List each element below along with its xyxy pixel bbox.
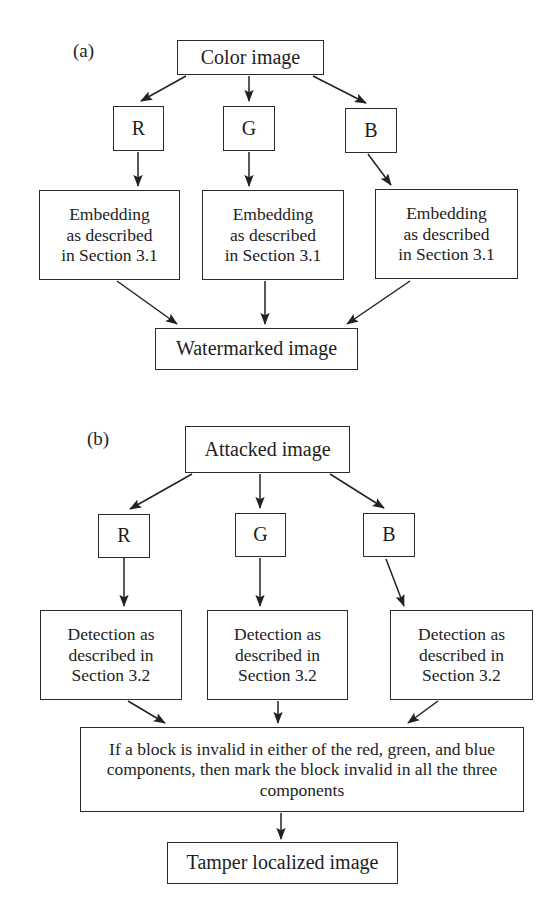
node-watermarked-image: Watermarked image (155, 328, 358, 370)
node-attacked-image-text: Attacked image (201, 438, 333, 461)
node-merge-rule-text: If a block is invalid in either of the r… (81, 739, 523, 800)
node-a-channel-b-text: B (361, 119, 380, 142)
panel-label-a: (a) (73, 40, 94, 62)
node-b-channel-g: G (235, 513, 286, 557)
node-a-embedding-b-text: Embedding as described in Section 3.1 (395, 203, 498, 264)
figure-canvas: (a) Color image R G B Embedding as descr… (0, 0, 558, 924)
node-a-embedding-r: Embedding as described in Section 3.1 (39, 190, 180, 280)
node-b-detection-g-text: Detection as described in Section 3.2 (231, 624, 324, 685)
node-a-channel-g: G (223, 106, 275, 151)
node-b-channel-b: B (363, 513, 415, 557)
arrow-process-r-to-result (117, 281, 177, 324)
node-a-channel-g-text: G (239, 117, 259, 140)
arrow-b-to-process (368, 154, 391, 185)
panel-label-b: (b) (87, 428, 109, 450)
arrow-b-source-to-r (130, 474, 192, 509)
node-a-embedding-g-text: Embedding as described in Section 3.1 (222, 204, 325, 265)
node-b-detection-b: Detection as described in Section 3.2 (390, 610, 533, 700)
node-tamper-localized-image: Tamper localized image (167, 842, 398, 884)
node-a-channel-r: R (113, 106, 164, 151)
node-b-detection-r: Detection as described in Section 3.2 (40, 610, 182, 700)
node-b-channel-g-text: G (250, 523, 270, 546)
arrow-b-process-r-to-merge (128, 701, 165, 723)
node-b-detection-b-text: Detection as described in Section 3.2 (415, 624, 508, 685)
node-b-detection-g: Detection as described in Section 3.2 (207, 610, 348, 700)
arrow-process-b-to-result (347, 281, 410, 324)
node-a-channel-r-text: R (129, 117, 148, 140)
node-color-image: Color image (177, 40, 324, 75)
node-a-channel-b: B (345, 108, 397, 153)
node-attacked-image: Attacked image (185, 426, 350, 473)
node-merge-rule: If a block is invalid in either of the r… (80, 727, 524, 812)
node-b-channel-r: R (98, 514, 150, 558)
node-a-embedding-g: Embedding as described in Section 3.1 (202, 190, 344, 280)
node-b-detection-r-text: Detection as described in Section 3.2 (65, 624, 158, 685)
arrow-b-process-b-to-merge (408, 701, 438, 723)
node-a-embedding-r-text: Embedding as described in Section 3.1 (58, 204, 161, 265)
node-watermarked-image-text: Watermarked image (173, 337, 340, 360)
node-color-image-text: Color image (198, 46, 303, 69)
node-b-channel-r-text: R (114, 524, 133, 547)
node-b-channel-b-text: B (379, 523, 398, 546)
node-tamper-localized-image-text: Tamper localized image (184, 851, 382, 874)
arrow-b-source-to-b (330, 474, 384, 508)
node-a-embedding-b: Embedding as described in Section 3.1 (375, 189, 518, 279)
arrow-source-to-b (313, 76, 366, 103)
arrow-source-to-r (141, 76, 186, 101)
arrow-b-b-to-process (386, 559, 404, 606)
